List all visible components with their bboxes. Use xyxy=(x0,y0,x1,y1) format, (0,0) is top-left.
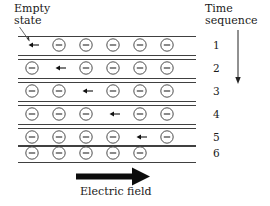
electron-icon xyxy=(161,62,173,74)
electron-icon xyxy=(134,39,146,51)
electron-drift-arrow-icon xyxy=(56,66,67,71)
electron-drift-arrow-icon xyxy=(110,112,121,117)
electric-field-arrow-icon xyxy=(76,168,150,186)
diagram-row xyxy=(18,36,196,55)
electron-icon xyxy=(161,108,173,120)
electron-icon xyxy=(80,147,92,159)
electron-icon xyxy=(26,108,38,120)
diagram-row xyxy=(18,59,196,78)
electron-icon xyxy=(26,147,38,159)
electron-icon xyxy=(107,85,119,97)
diagram-svg xyxy=(0,0,270,206)
electron-icon xyxy=(134,108,146,120)
electron-icon xyxy=(53,147,65,159)
diagram-row xyxy=(18,145,196,162)
electron-drift-arrow-icon xyxy=(137,135,148,140)
electron-icon xyxy=(26,62,38,74)
electron-icon xyxy=(107,62,119,74)
electron-icon xyxy=(53,85,65,97)
electron-icon xyxy=(134,147,146,159)
electron-icon xyxy=(107,131,119,143)
electron-icon xyxy=(26,131,38,143)
drift-arrow-head xyxy=(83,89,88,94)
electron-icon xyxy=(161,39,173,51)
diagram-row xyxy=(18,82,196,101)
electron-icon xyxy=(53,131,65,143)
diagram-canvas: Empty state Time sequence Electric field… xyxy=(0,0,270,206)
electron-icon xyxy=(53,39,65,51)
electron-icon xyxy=(80,62,92,74)
diagram-row xyxy=(18,105,196,124)
electron-icon xyxy=(134,85,146,97)
electron-drift-arrow-icon xyxy=(83,89,94,94)
electron-drift-arrow-icon xyxy=(29,43,40,48)
drift-arrow-head xyxy=(29,43,34,48)
electron-icon xyxy=(26,85,38,97)
electron-icon xyxy=(107,147,119,159)
drift-arrow-head xyxy=(56,66,61,71)
time-sequence-arrow-icon xyxy=(235,30,240,84)
electron-icon xyxy=(134,62,146,74)
electron-icon xyxy=(80,131,92,143)
electron-icon xyxy=(80,108,92,120)
electron-icon xyxy=(161,85,173,97)
diagram-row xyxy=(18,128,196,146)
electron-icon xyxy=(107,39,119,51)
electron-icon xyxy=(80,39,92,51)
electron-icon xyxy=(161,131,173,143)
drift-arrow-head xyxy=(110,112,115,117)
electron-icon xyxy=(53,108,65,120)
empty-state-pointer-icon xyxy=(20,27,30,42)
rows-group xyxy=(18,36,196,162)
drift-arrow-head xyxy=(137,135,142,140)
